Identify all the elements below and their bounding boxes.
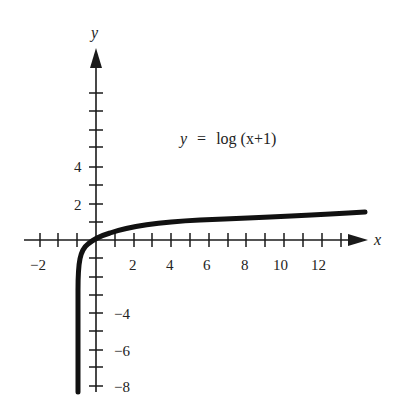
x-tick-label: 2 (129, 257, 137, 273)
x-tick-label: 10 (273, 257, 288, 273)
x-tick-label: 6 (203, 257, 211, 273)
chart-canvas: −2 2 4 6 8 10 12 2 4 −4 −6 −8 y x y = lo… (0, 0, 396, 416)
x-axis-arrow-icon (348, 234, 368, 246)
x-tick-label: −2 (30, 257, 46, 273)
y-axis-arrow-icon (90, 48, 102, 68)
x-tick-label: 12 (311, 257, 326, 273)
equation-lhs: y (178, 130, 188, 148)
x-tick-label: 8 (241, 257, 249, 273)
y-tick-label: −4 (114, 306, 130, 322)
x-tick-label: 4 (166, 257, 174, 273)
equation-label: y = log (x+1) (178, 130, 276, 148)
y-tick-label: 2 (74, 197, 82, 213)
x-axis-label: x (373, 231, 381, 248)
equation-equals: = (197, 130, 206, 147)
y-axis-label: y (89, 24, 99, 42)
y-tick-label: −6 (114, 343, 130, 359)
y-tick-label: 4 (74, 159, 82, 175)
equation-rhs: log (x+1) (216, 130, 276, 148)
y-tick-label: −8 (114, 379, 130, 395)
